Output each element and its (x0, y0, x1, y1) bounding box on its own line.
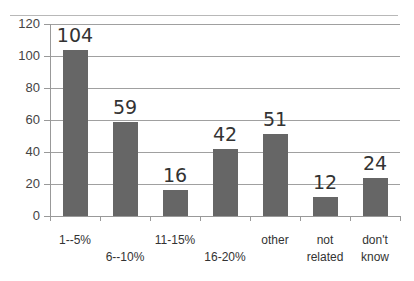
category-label-line2: 16-20% (195, 250, 255, 265)
y-axis (50, 24, 51, 217)
bar (313, 197, 338, 216)
bar (163, 190, 188, 216)
data-label: 24 (345, 152, 405, 174)
x-tick-mark (250, 216, 251, 221)
y-axis-label: 20 (0, 176, 40, 191)
y-axis-label: 100 (0, 48, 40, 63)
x-tick-mark (150, 216, 151, 221)
category-label-line2: know (345, 250, 405, 265)
bar (263, 134, 288, 216)
data-label: 59 (95, 96, 155, 118)
data-label: 12 (295, 171, 355, 193)
gridline (50, 120, 400, 121)
x-axis (45, 216, 401, 217)
bar (63, 50, 88, 216)
data-label: 104 (45, 24, 105, 46)
y-axis-label: 40 (0, 144, 40, 159)
category-label: 1--5% (45, 233, 105, 248)
y-axis-label: 120 (0, 16, 40, 31)
bar (113, 122, 138, 216)
x-tick-mark (100, 216, 101, 221)
data-label: 16 (145, 164, 205, 186)
gridline (50, 56, 400, 57)
y-axis-label: 60 (0, 112, 40, 127)
data-label: 51 (245, 108, 305, 130)
chart-top-border (10, 15, 398, 16)
x-tick-mark (200, 216, 201, 221)
gridline (50, 88, 400, 89)
x-tick-mark (350, 216, 351, 221)
x-tick-mark (300, 216, 301, 221)
x-tick-mark (400, 216, 401, 221)
y-axis-label: 0 (0, 208, 40, 223)
bar (213, 149, 238, 216)
y-axis-label: 80 (0, 80, 40, 95)
x-tick-mark (50, 216, 51, 221)
category-label-line2: 6--10% (95, 250, 155, 265)
category-label: 11-15% (145, 233, 205, 248)
bar (363, 178, 388, 216)
category-label: don't (345, 233, 405, 248)
